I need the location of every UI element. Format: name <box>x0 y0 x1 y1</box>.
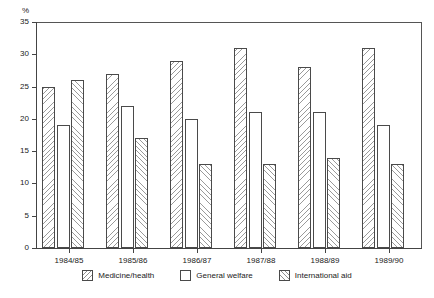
y-tick-mark <box>32 54 36 55</box>
x-tick-mark <box>261 249 262 253</box>
y-tick-label: 25 <box>20 81 29 92</box>
bar <box>362 48 375 248</box>
y-tick-label: 35 <box>20 16 29 27</box>
x-tick-mark <box>389 249 390 253</box>
legend-label: General welfare <box>196 271 252 281</box>
x-tick-label: 1985/86 <box>119 256 148 266</box>
x-tick-label: 1987/88 <box>247 256 276 266</box>
bar <box>298 67 311 248</box>
bar <box>199 164 212 248</box>
y-axis-unit-label: % <box>22 6 29 15</box>
x-tick-mark <box>325 249 326 253</box>
bar <box>42 87 55 248</box>
x-tick-label: 1989/90 <box>375 256 404 266</box>
legend-item[interactable]: General welfare <box>180 270 252 281</box>
x-tick-label: 1984/85 <box>55 256 84 266</box>
bar <box>106 74 119 248</box>
bar <box>57 125 70 248</box>
bars-layer <box>37 22 421 248</box>
chart-legend: Medicine/healthGeneral welfareInternatio… <box>0 270 434 281</box>
y-tick-mark <box>32 183 36 184</box>
y-tick-label: 0 <box>25 242 29 253</box>
legend-swatch-icon <box>180 270 191 281</box>
y-tick-label: 20 <box>20 113 29 124</box>
bar <box>185 119 198 248</box>
y-tick-label: 10 <box>20 177 29 188</box>
y-axis-tick: 25 <box>0 87 36 88</box>
y-tick-label: 30 <box>20 48 29 59</box>
bar <box>313 112 326 248</box>
bar <box>121 106 134 248</box>
x-axis-line <box>36 248 422 249</box>
bar <box>170 61 183 248</box>
legend-item[interactable]: International aid <box>279 270 352 281</box>
bar <box>263 164 276 248</box>
grouped-bar-chart: % 05101520253035 1984/851985/861986/8719… <box>0 0 434 298</box>
x-tick-mark <box>133 249 134 253</box>
y-axis-tick: 10 <box>0 183 36 184</box>
y-axis-tick: 35 <box>0 22 36 23</box>
legend-item[interactable]: Medicine/health <box>82 270 154 281</box>
bar <box>327 158 340 248</box>
y-tick-mark <box>32 119 36 120</box>
x-tick-mark <box>197 249 198 253</box>
bar <box>391 164 404 248</box>
legend-swatch-icon <box>82 270 93 281</box>
y-tick-mark <box>32 87 36 88</box>
bar <box>234 48 247 248</box>
bar <box>135 138 148 248</box>
legend-label: International aid <box>295 271 352 281</box>
y-axis-tick: 15 <box>0 151 36 152</box>
bar <box>71 80 84 248</box>
bar <box>249 112 262 248</box>
bar <box>377 125 390 248</box>
x-tick-mark <box>69 249 70 253</box>
y-axis-tick: 20 <box>0 119 36 120</box>
y-axis-tick: 30 <box>0 54 36 55</box>
y-tick-mark <box>32 216 36 217</box>
y-tick-mark <box>32 151 36 152</box>
x-tick-label: 1986/87 <box>183 256 212 266</box>
y-tick-label: 15 <box>20 145 29 156</box>
legend-swatch-icon <box>279 270 290 281</box>
y-tick-label: 5 <box>25 210 29 221</box>
y-tick-mark <box>32 22 36 23</box>
legend-label: Medicine/health <box>98 271 154 281</box>
y-axis-tick: 0 <box>0 248 36 249</box>
x-tick-label: 1988/89 <box>311 256 340 266</box>
y-axis-tick: 5 <box>0 216 36 217</box>
y-tick-mark <box>32 248 36 249</box>
